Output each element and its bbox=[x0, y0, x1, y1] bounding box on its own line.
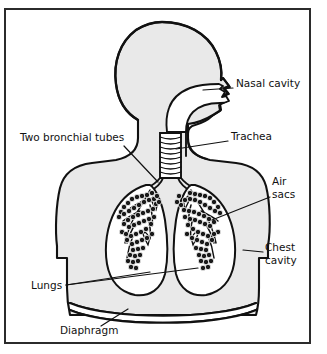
label-chest-cavity-line1: Chest bbox=[265, 241, 295, 253]
label-chest-cavity-line2: cavity bbox=[265, 254, 297, 266]
label-diaphragm: Diaphragm bbox=[60, 324, 118, 337]
label-air-sacs-line2: sacs bbox=[272, 188, 295, 200]
label-lungs: Lungs bbox=[31, 279, 62, 292]
label-two-bronchial-tubes: Two bronchial tubes bbox=[20, 131, 124, 144]
trachea-ribbed-tube bbox=[160, 133, 181, 178]
figure-page: Nasal cavity Trachea Two bronchial tubes… bbox=[0, 0, 327, 354]
label-nasal-cavity: Nasal cavity bbox=[236, 77, 300, 90]
label-air-sacs-line1: Air bbox=[272, 175, 286, 187]
label-air-sacs: Airsacs bbox=[272, 175, 295, 200]
label-trachea: Trachea bbox=[231, 130, 272, 143]
label-chest-cavity: Chestcavity bbox=[265, 241, 297, 266]
